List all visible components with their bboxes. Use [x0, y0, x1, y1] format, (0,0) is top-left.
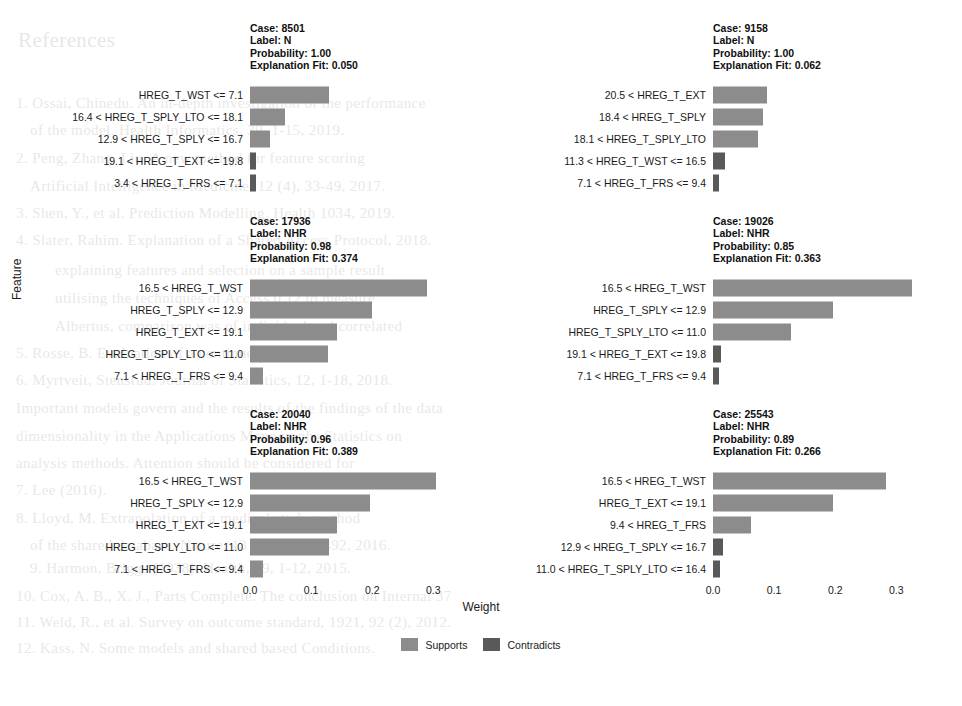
- label-line: Label: NHR: [250, 227, 358, 239]
- figure-canvas: Feature Weight Case: 8501Label: NProbabi…: [0, 0, 962, 706]
- bar-track: [713, 106, 933, 128]
- weight-bar: [713, 131, 758, 148]
- bar-track: [713, 84, 933, 106]
- feature-row: HREG_T_SPLY <= 12.9: [22, 299, 477, 321]
- weight-bar: [713, 302, 833, 319]
- feature-label: 9.4 < HREG_T_FRS: [610, 519, 713, 531]
- probability-line: Probability: 1.00: [250, 47, 358, 59]
- case-line: Case: 9158: [713, 22, 821, 34]
- case-line: Case: 8501: [250, 22, 358, 34]
- label-line: Label: NHR: [713, 420, 821, 432]
- x-axis-tick-label: 0.2: [828, 584, 843, 596]
- bar-track: [713, 172, 933, 194]
- feature-row: HREG_T_SPLY <= 12.9: [22, 492, 477, 514]
- panel-header: Case: 17936Label: NHRProbability: 0.98Ex…: [250, 215, 358, 265]
- explanation-fit-line: Explanation Fit: 0.266: [713, 445, 821, 457]
- weight-bar: [250, 324, 337, 341]
- panel-header: Case: 19026Label: NHRProbability: 0.85Ex…: [713, 215, 821, 265]
- weight-bar: [713, 324, 791, 341]
- feature-row: HREG_T_SPLY_LTO <= 11.0: [485, 321, 940, 343]
- weight-bar: [713, 109, 763, 126]
- bar-track: [250, 492, 470, 514]
- feature-label: HREG_T_EXT <= 19.1: [136, 519, 250, 531]
- feature-label: 11.3 < HREG_T_WST <= 16.5: [564, 155, 713, 167]
- weight-bar: [250, 280, 427, 297]
- explanation-fit-line: Explanation Fit: 0.374: [250, 252, 358, 264]
- feature-row: 3.4 < HREG_T_FRS <= 7.1: [22, 172, 477, 194]
- bar-track: [713, 470, 933, 492]
- feature-row: 20.5 < HREG_T_EXT: [485, 84, 940, 106]
- probability-line: Probability: 0.98: [250, 240, 358, 252]
- bar-track: [713, 365, 933, 387]
- bar-track: [713, 321, 933, 343]
- feature-label: 12.9 < HREG_T_SPLY <= 16.7: [561, 541, 713, 553]
- explanation-fit-line: Explanation Fit: 0.050: [250, 59, 358, 71]
- label-line: Label: N: [713, 34, 821, 46]
- label-line: Label: NHR: [713, 227, 821, 239]
- weight-bar: [713, 473, 886, 490]
- weight-bar: [713, 175, 719, 192]
- bar-track: [250, 172, 470, 194]
- weight-bar: [250, 109, 285, 126]
- bar-track: [250, 84, 470, 106]
- weight-bar: [250, 302, 372, 319]
- weight-bar: [250, 87, 329, 104]
- legend: Supports Contradicts: [0, 638, 962, 651]
- bar-track: [250, 343, 470, 365]
- bar-track: [713, 128, 933, 150]
- feature-label: 12.9 < HREG_T_SPLY <= 16.7: [98, 133, 250, 145]
- case-line: Case: 25543: [713, 408, 821, 420]
- feature-row: 19.1 < HREG_T_EXT <= 19.8: [22, 150, 477, 172]
- feature-label: HREG_T_EXT <= 19.1: [136, 326, 250, 338]
- x-axis-tick-label: 0.3: [426, 584, 441, 596]
- bar-track: [713, 277, 933, 299]
- feature-label: 7.1 < HREG_T_FRS <= 9.4: [577, 370, 713, 382]
- feature-row: 19.1 < HREG_T_EXT <= 19.8: [485, 343, 940, 365]
- probability-line: Probability: 0.85: [713, 240, 821, 252]
- bar-track: [713, 514, 933, 536]
- feature-row: HREG_T_EXT <= 19.1: [22, 514, 477, 536]
- feature-label: HREG_T_SPLY_LTO <= 11.0: [568, 326, 713, 338]
- weight-bar: [250, 175, 256, 192]
- weight-bar: [250, 368, 263, 385]
- explanation-panel: Case: 25543Label: NHRProbability: 0.89Ex…: [485, 408, 940, 606]
- explanation-panel: Case: 19026Label: NHRProbability: 0.85Ex…: [485, 215, 940, 413]
- feature-row: 12.9 < HREG_T_SPLY <= 16.7: [485, 536, 940, 558]
- feature-label: 18.4 < HREG_T_SPLY: [599, 111, 713, 123]
- weight-bar: [713, 495, 833, 512]
- legend-label-supports: Supports: [425, 639, 467, 651]
- feature-row: 18.1 < HREG_T_SPLY_LTO: [485, 128, 940, 150]
- explanation-fit-line: Explanation Fit: 0.389: [250, 445, 358, 457]
- weight-bar: [250, 473, 436, 490]
- feature-label: 19.1 < HREG_T_EXT <= 19.8: [103, 155, 250, 167]
- weight-bar: [713, 368, 719, 385]
- x-axis-tick-label: 0.1: [767, 584, 782, 596]
- bar-track: [713, 150, 933, 172]
- feature-row: 7.1 < HREG_T_FRS <= 9.4: [22, 365, 477, 387]
- bar-track: [250, 128, 470, 150]
- panel-header: Case: 9158Label: NProbability: 1.00Expla…: [713, 22, 821, 72]
- bar-track: [250, 536, 470, 558]
- weight-bar: [250, 539, 329, 556]
- feature-label: 16.4 < HREG_T_SPLY_LTO <= 18.1: [72, 111, 250, 123]
- feature-row: 7.1 < HREG_T_FRS <= 9.4: [485, 365, 940, 387]
- bar-track: [713, 558, 933, 580]
- feature-label: HREG_T_SPLY_LTO <= 11.0: [105, 348, 250, 360]
- panel-header: Case: 20040Label: NHRProbability: 0.96Ex…: [250, 408, 358, 458]
- feature-label: HREG_T_SPLY <= 12.9: [130, 304, 250, 316]
- feature-label: 3.4 < HREG_T_FRS <= 7.1: [114, 177, 250, 189]
- weight-bar: [713, 517, 751, 534]
- bar-track: [250, 365, 470, 387]
- label-line: Label: NHR: [250, 420, 358, 432]
- feature-label: 19.1 < HREG_T_EXT <= 19.8: [566, 348, 713, 360]
- feature-row: 7.1 < HREG_T_FRS <= 9.4: [485, 172, 940, 194]
- bar-track: [250, 321, 470, 343]
- feature-row: 16.5 < HREG_T_WST: [485, 470, 940, 492]
- case-line: Case: 19026: [713, 215, 821, 227]
- weight-bar: [250, 153, 256, 170]
- case-line: Case: 17936: [250, 215, 358, 227]
- feature-row: HREG_T_WST <= 7.1: [22, 84, 477, 106]
- feature-row: 16.4 < HREG_T_SPLY_LTO <= 18.1: [22, 106, 477, 128]
- feature-label: 18.1 < HREG_T_SPLY_LTO: [574, 133, 713, 145]
- feature-row: 9.4 < HREG_T_FRS: [485, 514, 940, 536]
